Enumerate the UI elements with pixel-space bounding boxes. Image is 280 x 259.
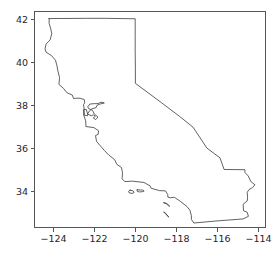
x-tick-label: −116	[204, 233, 230, 244]
x-tick-label: −120	[122, 233, 148, 244]
california-map-plot: −124−122−120−118−116−114 3436384042	[0, 0, 280, 259]
y-tick-label: 38	[16, 100, 28, 111]
y-tick-label: 40	[16, 57, 28, 68]
y-tick-label: 34	[16, 186, 28, 197]
x-tick-label: −114	[245, 233, 271, 244]
x-tick-label: −124	[40, 233, 66, 244]
matplotlib-figure: −124−122−120−118−116−114 3436384042	[0, 0, 280, 259]
y-tick-label: 36	[16, 143, 28, 154]
x-tick-label: −118	[163, 233, 189, 244]
x-tick-label: −122	[81, 233, 107, 244]
y-tick-label: 42	[16, 14, 28, 25]
axes-background	[34, 11, 266, 228]
